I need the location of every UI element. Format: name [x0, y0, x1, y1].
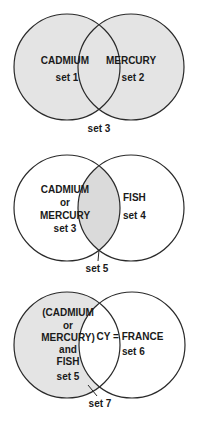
- label-fish: FISH: [57, 356, 80, 367]
- label-cadmium: (CADMIUM: [42, 307, 94, 318]
- venn-union: CADMIUM set 1 MERCURY set 2 set 3: [14, 14, 184, 134]
- label-set3: set 3: [54, 223, 77, 234]
- pointer-line-set5: [98, 250, 99, 261]
- label-set3-result: set 3: [88, 123, 111, 134]
- label-mercury: MERCURY: [40, 210, 91, 221]
- label-set5-result: set 5: [86, 263, 109, 274]
- label-cadmium: CADMIUM: [41, 184, 89, 195]
- label-fish: FISH: [123, 192, 146, 203]
- venn-diagrams: CADMIUM set 1 MERCURY set 2 set 3 CADMIU…: [0, 0, 198, 426]
- venn-difference: (CADMIUM or MERCURY) and FISH set 5 CY =…: [14, 292, 185, 409]
- label-or: or: [60, 197, 70, 208]
- label-set2: set 2: [122, 72, 145, 83]
- label-cy-france: CY = FRANCE: [97, 331, 164, 342]
- label-cadmium: CADMIUM: [41, 55, 89, 66]
- label-set1: set 1: [56, 72, 79, 83]
- venn-intersection: CADMIUM or MERCURY set 3 FISH set 4 set …: [14, 155, 184, 274]
- label-set6: set 6: [122, 346, 145, 357]
- label-or: or: [63, 320, 73, 331]
- label-set5: set 5: [57, 371, 80, 382]
- label-set7-result: set 7: [89, 398, 112, 409]
- label-mercury: MERCURY: [106, 55, 157, 66]
- label-and: and: [59, 344, 77, 355]
- label-mercury: MERCURY): [41, 332, 95, 343]
- label-set4: set 4: [123, 210, 146, 221]
